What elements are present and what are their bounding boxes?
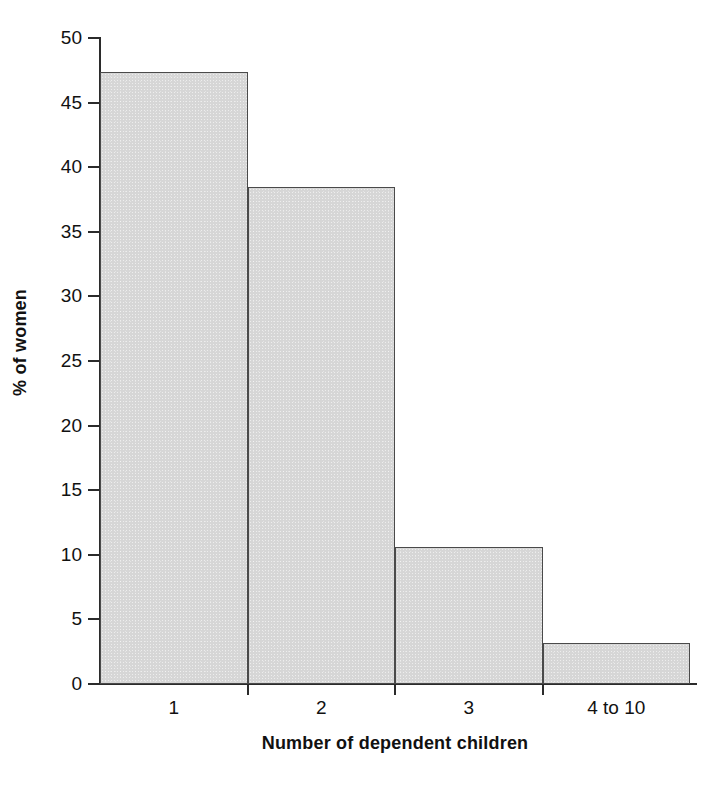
- y-axis-tick-label: 10: [22, 545, 82, 564]
- x-axis-tick-label: 1: [100, 697, 248, 719]
- y-axis-tick: [88, 166, 99, 168]
- y-axis-tick-label: 25: [22, 351, 82, 370]
- x-axis-title: Number of dependent children: [100, 733, 690, 754]
- y-axis-tick: [88, 295, 99, 297]
- y-axis-tick-label: 15: [22, 480, 82, 499]
- bar: [100, 72, 248, 684]
- bar-chart-figure: % of women 05101520253035404550 1234 to …: [0, 0, 716, 787]
- bar: [395, 547, 543, 684]
- y-axis-tick-label: 50: [22, 28, 82, 47]
- bar: [248, 187, 396, 684]
- y-axis-tick-label: 0: [22, 674, 82, 693]
- y-axis-tick-label: 40: [22, 157, 82, 176]
- y-axis-tick-label: 30: [22, 286, 82, 305]
- x-axis-tick-label: 2: [248, 697, 396, 719]
- y-axis-tick: [88, 425, 99, 427]
- y-axis-tick: [88, 37, 99, 39]
- y-axis-tick: [88, 683, 99, 685]
- plot-area: [100, 38, 690, 684]
- y-axis-tick-label: 35: [22, 222, 82, 241]
- x-axis-tick-label: 4 to 10: [543, 697, 691, 719]
- x-axis-tick: [542, 685, 544, 695]
- y-axis-tick: [88, 102, 99, 104]
- y-axis-tick: [88, 231, 99, 233]
- y-axis-tick: [88, 554, 99, 556]
- y-axis-tick-label: 45: [22, 93, 82, 112]
- y-axis-tick-label: 20: [22, 416, 82, 435]
- y-axis-tick: [88, 489, 99, 491]
- x-axis-tick-label: 3: [395, 697, 543, 719]
- y-axis-tick: [88, 360, 99, 362]
- y-axis-tick: [88, 618, 99, 620]
- bar: [543, 643, 691, 684]
- x-axis-tick: [394, 685, 396, 695]
- y-axis-tick-label: 5: [22, 609, 82, 628]
- x-axis-tick: [247, 685, 249, 695]
